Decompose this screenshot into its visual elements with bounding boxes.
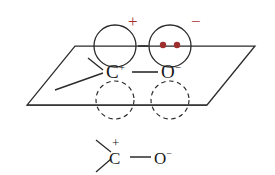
oxygen-p-orbital-lower-lobe — [151, 81, 189, 119]
oxygen-charge: − — [175, 61, 181, 73]
oxygen-symbol-lewis: O — [154, 149, 166, 168]
carbon-methyl-bond-upper — [88, 58, 103, 70]
carbon-charge: + — [119, 61, 125, 73]
oxygen-atom-label: O− — [161, 62, 181, 81]
molecular-plane-parallelogram — [27, 46, 255, 105]
oxygen-atom-label-lewis: O− — [154, 150, 172, 167]
negative-charge-annotation: − — [191, 13, 201, 30]
chemistry-orbital-diagram: + − C+ O− + C O− — [0, 0, 275, 175]
carbon-p-orbital-lower-lobe — [96, 81, 134, 119]
carbon-atom-label: C+ — [106, 62, 125, 81]
carbon-positive-charge-lewis: + — [112, 136, 119, 149]
oxygen-lone-pair-dot-left — [160, 42, 166, 48]
oxygen-lone-pair-dot-right — [174, 42, 180, 48]
oxygen-charge-lewis: − — [166, 148, 172, 159]
carbon-symbol-lewis: C — [109, 149, 120, 168]
oxygen-symbol: O — [161, 61, 175, 82]
carbon-symbol: C — [106, 61, 119, 82]
positive-charge-annotation: + — [128, 13, 138, 30]
carbon-methyl-bond-lower — [55, 73, 103, 90]
carbon-atom-label-lewis: C — [109, 150, 120, 167]
